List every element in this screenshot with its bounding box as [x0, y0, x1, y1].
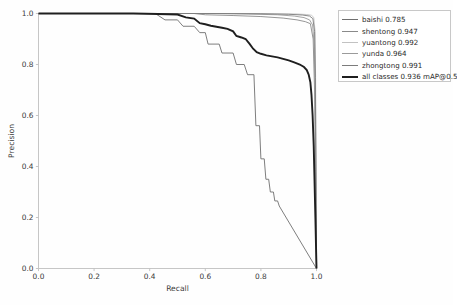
series-line-zhongtong	[39, 14, 317, 269]
x-tick-label: 0.2	[88, 272, 100, 281]
legend-label: baishi 0.785	[362, 16, 406, 23]
y-tick-label: 1.0	[22, 9, 34, 18]
x-tick-label: 0.8	[255, 272, 267, 281]
legend-label: all classes 0.936 mAP@0.5	[362, 73, 457, 80]
x-tick-label: 1.0	[311, 272, 323, 281]
y-tick-label: 0.6	[22, 111, 34, 120]
legend-swatch-icon	[342, 42, 358, 43]
x-tick-label: 0.6	[199, 272, 211, 281]
legend-label: shentong 0.947	[362, 28, 418, 35]
legend-swatch-icon	[342, 31, 358, 32]
legend-item-shentong: shentong 0.947	[342, 25, 446, 36]
legend-item-all-classes: all classes 0.936 mAP@0.5	[342, 71, 446, 82]
legend-item-baishi: baishi 0.785	[342, 14, 446, 25]
y-tick-label: 0.8	[22, 60, 34, 69]
x-axis-title: Recall	[166, 284, 189, 293]
y-axis-title: Precision	[7, 124, 16, 158]
series-line-yunda	[39, 14, 317, 269]
y-tick-label: 0.2	[22, 213, 34, 222]
series-line-all-classes	[39, 14, 317, 269]
x-tick-label: 0.4	[144, 272, 156, 281]
curves-group	[39, 14, 317, 269]
legend-swatch-icon	[342, 76, 358, 78]
legend-label: zhongtong 0.991	[362, 62, 422, 69]
y-tick-label: 0.0	[22, 264, 34, 273]
legend-item-yuantong: yuantong 0.992	[342, 37, 446, 48]
series-line-shentong	[39, 14, 317, 269]
axes-group	[36, 14, 317, 272]
legend-swatch-icon	[342, 65, 358, 66]
legend-label: yunda 0.964	[362, 50, 407, 57]
series-line-baishi	[39, 14, 317, 269]
axis-labels-group: 0.00.20.40.60.81.00.00.20.40.60.81.0Reca…	[7, 9, 323, 292]
legend-swatch-icon	[342, 53, 358, 54]
legend-label: yuantong 0.992	[362, 39, 418, 46]
y-tick-label: 0.4	[22, 162, 34, 171]
series-line-yuantong	[39, 14, 317, 269]
legend-swatch-icon	[342, 19, 358, 20]
legend-item-yunda: yunda 0.964	[342, 48, 446, 59]
x-tick-label: 0.0	[33, 272, 45, 281]
legend-item-zhongtong: zhongtong 0.991	[342, 60, 446, 71]
legend: baishi 0.785shentong 0.947yuantong 0.992…	[338, 10, 451, 82]
